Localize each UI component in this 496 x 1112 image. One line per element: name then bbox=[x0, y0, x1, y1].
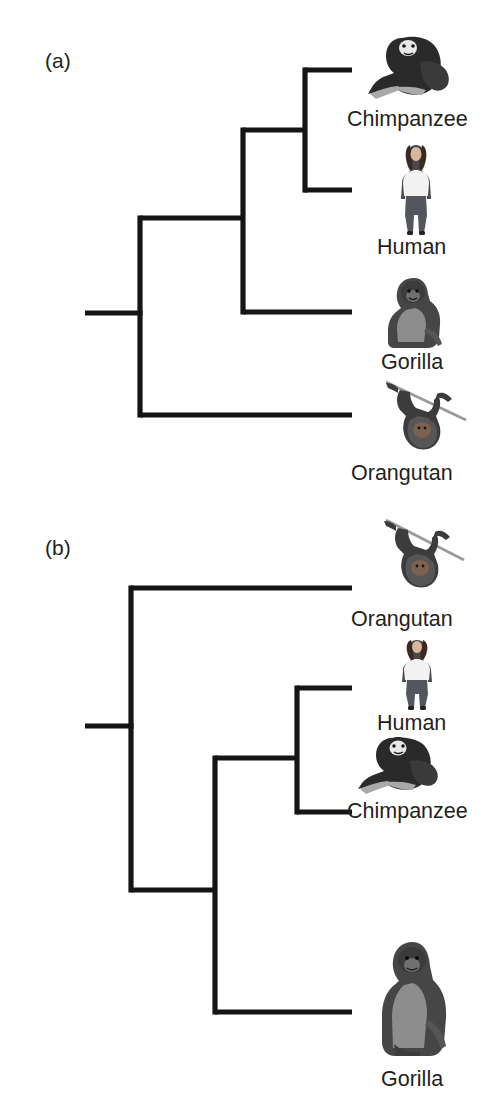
taxon-label-chimpanzee: Chimpanzee bbox=[347, 108, 468, 131]
taxon-label-gorilla: Gorilla bbox=[381, 1068, 443, 1091]
orangutan-icon bbox=[372, 518, 466, 590]
taxon-label-human: Human bbox=[377, 712, 446, 735]
panel-b: (b) Orangutan bbox=[0, 500, 496, 1112]
taxon-label-orangutan: Orangutan bbox=[351, 462, 453, 485]
taxon-label-chimpanzee: Chimpanzee bbox=[347, 800, 468, 823]
taxon-label-orangutan: Orangutan bbox=[351, 608, 453, 631]
panel-a: (a) Chimpanzee bbox=[0, 0, 496, 500]
taxon-label-human: Human bbox=[377, 236, 446, 259]
human-icon bbox=[396, 143, 436, 235]
orangutan-icon bbox=[382, 380, 468, 452]
gorilla-icon bbox=[384, 276, 446, 350]
chimpanzee-icon bbox=[368, 32, 452, 104]
chimpanzee-icon bbox=[358, 734, 440, 798]
human-icon bbox=[398, 638, 436, 710]
taxon-label-gorilla: Gorilla bbox=[381, 351, 443, 374]
gorilla-icon bbox=[378, 938, 450, 1060]
